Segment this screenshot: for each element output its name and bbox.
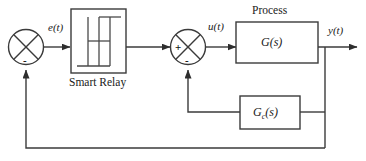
controller-transfer-function-label: Gc(s) [253,106,278,121]
outer-sum-minus-sign: - [23,55,27,66]
control-signal-label: u(t) [208,21,224,32]
inner-sum-plus-sign: + [175,42,181,53]
process-caption: Process [252,5,287,17]
process-args: (s) [270,35,283,49]
wire-controller-to-sum [188,70,240,112]
block-diagram: e(t) u(t) y(t) Smart Relay Process G(s) … [0,0,366,161]
controller-args: (s) [265,105,278,119]
controller-g-symbol: G [253,105,262,119]
smart-relay-block [71,9,126,73]
inner-sum-minus-sign: - [185,55,189,66]
process-transfer-function-label: G(s) [261,36,282,48]
error-signal-label: e(t) [48,22,63,33]
smart-relay-caption: Smart Relay [69,77,126,89]
process-g-symbol: G [261,35,270,49]
output-signal-label: y(t) [328,25,343,36]
